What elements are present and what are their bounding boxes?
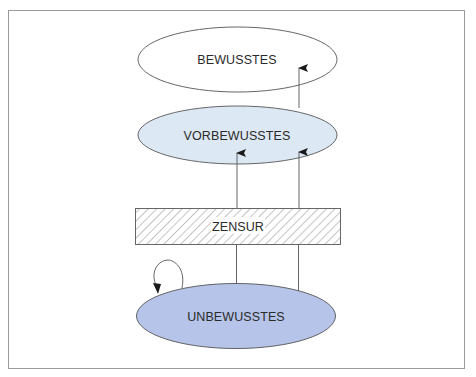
node-bewusstes-label: BEWUSSTES [197, 53, 276, 67]
diagram-canvas: BEWUSSTES VORBEWUSSTES ZENSUR UNBEWUSSTE… [0, 0, 476, 377]
node-bewusstes: BEWUSSTES [138, 27, 337, 92]
node-zensur: ZENSUR [136, 209, 341, 245]
node-unbewusstes: UNBEWUSSTES [137, 284, 336, 349]
node-vorbewusstes-label: VORBEWUSSTES [184, 129, 291, 143]
node-zensur-label: ZENSUR [212, 220, 264, 234]
node-vorbewusstes: VORBEWUSSTES [138, 106, 337, 164]
node-unbewusstes-label: UNBEWUSSTES [187, 310, 285, 324]
